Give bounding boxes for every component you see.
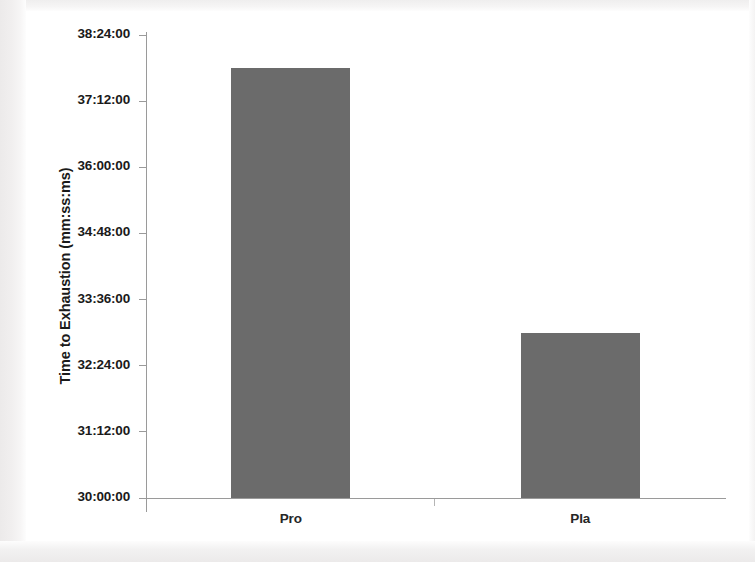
y-axis-tick-mark: [139, 167, 146, 168]
y-axis-tick-label: 37:12:00: [78, 92, 130, 107]
y-axis-tick-mark: [139, 299, 146, 300]
x-axis-label-pro: Pro: [231, 511, 351, 526]
x-axis-line: [146, 498, 726, 499]
y-axis-tick-label: 33:36:00: [78, 291, 130, 306]
y-axis-tick-label: 30:00:00: [78, 489, 130, 504]
y-axis-tick-label: 36:00:00: [78, 158, 130, 173]
bar-pro[interactable]: [231, 68, 350, 498]
bar-series-group: [146, 35, 725, 498]
y-axis-tick-label: 32:24:00: [78, 357, 130, 372]
y-axis-title: Time to Exhaustion (mm:ss:ms): [52, 11, 78, 541]
y-axis-tick-label: 38:24:00: [78, 26, 130, 41]
scan-border-left: [0, 0, 26, 562]
y-axis-tick-label: 31:12:00: [78, 423, 130, 438]
scan-border-right: [749, 0, 755, 562]
chart-canvas: Time to Exhaustion (mm:ss:ms) 30:00:0031…: [26, 11, 749, 541]
scan-border-bottom: [0, 541, 755, 562]
scan-border-top: [0, 0, 755, 11]
y-axis-tick-mark: [139, 498, 146, 499]
y-axis-tick-mark: [139, 431, 146, 432]
y-axis-tick-label: 34:48:00: [78, 224, 130, 239]
x-axis-label-pla: Pla: [520, 511, 640, 526]
y-axis-tick-mark: [139, 233, 146, 234]
y-axis-tick-mark: [139, 35, 146, 36]
y-axis-tick-mark: [139, 101, 146, 102]
y-axis-tick-mark: [139, 365, 146, 366]
bar-pla[interactable]: [521, 333, 640, 498]
chart-screenshot: Time to Exhaustion (mm:ss:ms) 30:00:0031…: [0, 0, 755, 562]
x-axis-mid-tick: [434, 499, 435, 506]
